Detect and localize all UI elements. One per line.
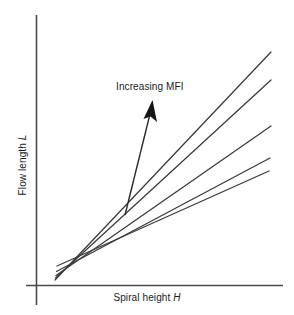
chart-plot-area <box>0 0 294 315</box>
series-line-mfi-1 <box>57 171 269 266</box>
y-axis-label: Flow length L <box>17 135 28 196</box>
increasing-mfi-annotation-label: Increasing MFI <box>116 81 184 92</box>
spiral-flow-chart-figure: Increasing MFI Spiral height H Flow leng… <box>0 0 294 315</box>
y-axis-label-text: Flow length <box>17 140 28 195</box>
series-line-mfi-2 <box>57 158 271 272</box>
x-axis-label: Spiral height H <box>0 292 294 303</box>
y-axis-label-symbol: L <box>17 135 28 141</box>
x-axis-label-symbol: H <box>173 292 180 303</box>
increasing-mfi-arrow-shaft <box>125 112 151 215</box>
y-axis-label-wrapper: Flow length L <box>0 0 44 315</box>
series-line-mfi-3 <box>56 126 271 276</box>
increasing-mfi-arrow-head <box>144 100 158 122</box>
annotation-text-value: Increasing MFI <box>116 81 184 92</box>
x-axis-label-text: Spiral height <box>113 292 173 303</box>
series-line-mfi-4 <box>56 80 272 278</box>
